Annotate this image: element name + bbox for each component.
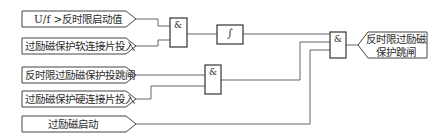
and-gate-1-symbol: &	[170, 20, 186, 30]
input-label-2: 过励磁保护软连接片投入	[25, 40, 135, 52]
wire-in4-and2	[136, 86, 205, 99]
output-label-line1: 反时限过励磁	[366, 33, 426, 45]
wire-in1-and1	[136, 19, 170, 26]
integral-symbol: ∫	[222, 27, 238, 40]
input-label-4: 过励磁保护硬连接片投入	[25, 93, 135, 105]
input-label-1: U/f >反时限启动值	[34, 13, 122, 25]
and-gate-2-symbol: &	[205, 67, 221, 77]
wire-and2-and3	[221, 42, 330, 80]
input-label-3: 反时限过励磁保护投跳闸	[25, 69, 135, 81]
wire-in5-and3	[136, 50, 330, 124]
output-label-line2: 保护跳闸	[366, 46, 426, 58]
wire-in2-and1	[136, 40, 170, 46]
and-gate-3-symbol: &	[330, 34, 346, 44]
input-label-5: 过励磁启动	[48, 118, 98, 130]
